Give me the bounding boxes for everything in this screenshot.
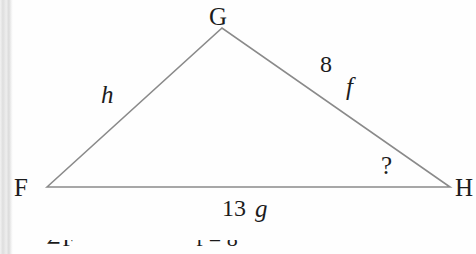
angle-h-question-mark: ? — [381, 153, 392, 178]
side-label-h: h — [101, 82, 114, 107]
clipped-text-row: ∠F f = 8 — [0, 240, 476, 254]
side-length-8: 8 — [320, 52, 332, 76]
clipped-fragment-f-equals-8: f = 8 — [196, 240, 238, 250]
vertex-label-h: H — [455, 175, 473, 200]
side-label-f: f — [346, 74, 353, 99]
figure-page: F G H h 8 f 13 g ? ∠F f = 8 — [0, 0, 476, 254]
clipped-fragment-angle-f: ∠F — [44, 240, 75, 250]
vertex-label-g: G — [209, 4, 227, 29]
side-label-g: g — [255, 196, 268, 221]
side-length-13: 13 — [222, 196, 246, 220]
vertex-label-f: F — [14, 175, 28, 200]
